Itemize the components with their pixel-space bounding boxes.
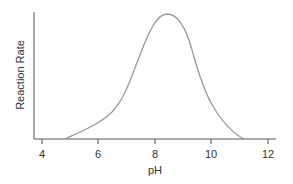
x-tick-label: 8 xyxy=(152,148,158,160)
y-axis-title: Reaction Rate xyxy=(14,40,26,110)
reaction-rate-curve xyxy=(65,14,244,139)
x-ticks xyxy=(42,139,268,144)
x-tick-label: 10 xyxy=(205,148,217,160)
x-axis-title: pH xyxy=(148,164,162,176)
x-tick-label: 4 xyxy=(39,148,45,160)
x-tick-label: 6 xyxy=(95,148,101,160)
chart: 4 6 8 10 12 pH Reaction Rate xyxy=(0,0,293,184)
x-tick-label: 12 xyxy=(262,148,274,160)
